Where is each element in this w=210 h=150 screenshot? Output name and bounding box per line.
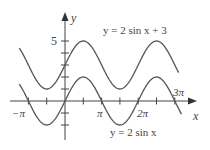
x-tick-label-3pi: 3π — [172, 86, 185, 98]
upper-curve-label: y = 2 sin x + 3 — [103, 24, 167, 36]
y-axis-arrow-icon — [62, 12, 69, 21]
lower-curve-label: y = 2 sin x — [110, 126, 157, 138]
y-tick-label-5: 5 — [51, 34, 57, 48]
upper-curve-line — [19, 41, 178, 89]
x-tick-label-neg-pi: −π — [12, 107, 25, 119]
chart: y x 5 −π π 2π 3π y = 2 sin x + 3 y = 2 s… — [0, 0, 210, 150]
x-axis-label: x — [192, 109, 199, 123]
x-axis-arrow-icon — [188, 98, 197, 105]
x-tick-label-2pi: 2π — [137, 107, 149, 119]
y-axis-label: y — [70, 11, 77, 25]
x-tick-label-pi: π — [97, 107, 103, 119]
